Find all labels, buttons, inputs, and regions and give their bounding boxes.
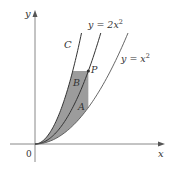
curve-y-2x2-label: y = 2x2	[87, 18, 123, 30]
x-axis-label: x	[158, 148, 164, 159]
point-p	[87, 69, 90, 72]
region-a-label: A	[77, 101, 85, 112]
curve-y-x2-exponent: 2	[146, 52, 150, 60]
curve-c-label: C	[64, 39, 72, 50]
curve-y-2x2-label-text: y = 2x	[87, 19, 119, 30]
x-axis-arrow-icon	[158, 142, 165, 147]
curve-y-x2-label-text: y = x	[120, 53, 146, 64]
diagram-figure: y x 0 C y = 2x2 y = x2 B A P	[0, 0, 174, 172]
point-p-label: P	[90, 64, 98, 75]
y-axis-label: y	[24, 8, 31, 19]
curve-y-x2-label: y = x2	[120, 52, 150, 64]
region-b-label: B	[72, 77, 80, 88]
origin-label: 0	[26, 149, 32, 159]
curve-y-2x2-exponent: 2	[119, 18, 123, 26]
y-axis-arrow-icon	[33, 10, 38, 17]
